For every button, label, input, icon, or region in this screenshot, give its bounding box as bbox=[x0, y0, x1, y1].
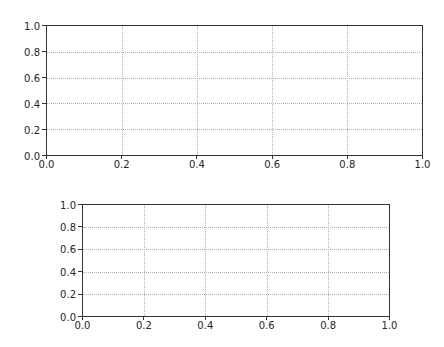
y-tick-mark bbox=[42, 51, 46, 52]
x-tick-label: 1.0 bbox=[382, 320, 398, 331]
y-tick-mark bbox=[78, 249, 82, 250]
y-tick-mark bbox=[78, 294, 82, 295]
gridline-horizontal bbox=[47, 78, 422, 79]
y-tick-label: 0.4 bbox=[60, 266, 76, 277]
x-tick-label: 0.6 bbox=[259, 320, 275, 331]
x-tick-label: 0.6 bbox=[264, 159, 280, 170]
y-tick-label: 0.0 bbox=[60, 311, 76, 322]
y-tick-mark bbox=[78, 271, 82, 272]
y-tick-mark bbox=[78, 226, 82, 227]
y-tick-mark bbox=[42, 155, 46, 156]
y-tick-label: 0.6 bbox=[60, 244, 76, 255]
gridline-vertical bbox=[328, 205, 329, 316]
plot-axes-1 bbox=[46, 25, 423, 156]
gridline-vertical bbox=[205, 205, 206, 316]
gridline-horizontal bbox=[83, 227, 389, 228]
y-tick-label: 0.2 bbox=[60, 289, 76, 300]
y-tick-mark bbox=[42, 25, 46, 26]
gridline-vertical bbox=[267, 205, 268, 316]
y-tick-label: 0.8 bbox=[60, 221, 76, 232]
gridline-horizontal bbox=[83, 249, 389, 250]
x-tick-label: 0.0 bbox=[75, 320, 91, 331]
x-tick-label: 0.4 bbox=[197, 320, 213, 331]
gridline-horizontal bbox=[47, 103, 422, 104]
gridline-vertical bbox=[272, 26, 273, 155]
gridline-vertical bbox=[122, 26, 123, 155]
y-tick-label: 0.0 bbox=[24, 150, 40, 161]
gridline-vertical bbox=[197, 26, 198, 155]
y-tick-mark bbox=[42, 103, 46, 104]
y-tick-label: 1.0 bbox=[24, 20, 40, 31]
y-tick-mark bbox=[78, 204, 82, 205]
y-tick-label: 0.2 bbox=[24, 124, 40, 135]
x-tick-label: 0.8 bbox=[320, 320, 336, 331]
y-tick-label: 0.6 bbox=[24, 72, 40, 83]
gridline-vertical bbox=[144, 205, 145, 316]
x-tick-label: 0.0 bbox=[39, 159, 55, 170]
y-tick-label: 0.4 bbox=[24, 98, 40, 109]
gridline-horizontal bbox=[47, 129, 422, 130]
y-tick-label: 0.8 bbox=[24, 46, 40, 57]
gridline-horizontal bbox=[83, 272, 389, 273]
plot-axes-2 bbox=[82, 204, 390, 317]
x-tick-label: 0.4 bbox=[189, 159, 205, 170]
x-tick-label: 0.8 bbox=[339, 159, 355, 170]
x-tick-label: 1.0 bbox=[415, 159, 431, 170]
gridline-vertical bbox=[347, 26, 348, 155]
y-tick-mark bbox=[42, 77, 46, 78]
y-tick-mark bbox=[42, 129, 46, 130]
y-tick-mark bbox=[78, 316, 82, 317]
gridline-horizontal bbox=[47, 52, 422, 53]
gridline-horizontal bbox=[83, 294, 389, 295]
x-tick-label: 0.2 bbox=[114, 159, 130, 170]
x-tick-label: 0.2 bbox=[136, 320, 152, 331]
y-tick-label: 1.0 bbox=[60, 199, 76, 210]
